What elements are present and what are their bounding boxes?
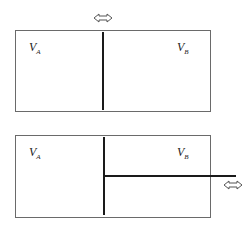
top-partition [102, 32, 104, 110]
top-label-va: VA [29, 40, 41, 56]
label-sub: A [36, 153, 40, 161]
label-sub: A [36, 48, 40, 56]
bottom-label-vb: VB [177, 145, 189, 161]
double-arrow-icon [223, 180, 243, 190]
top-label-vb: VB [177, 40, 189, 56]
bottom-label-va: VA [29, 145, 41, 161]
label-sub: B [184, 153, 188, 161]
bottom-piston-rod [104, 175, 236, 177]
double-arrow-icon [93, 13, 113, 23]
label-sub: B [184, 48, 188, 56]
